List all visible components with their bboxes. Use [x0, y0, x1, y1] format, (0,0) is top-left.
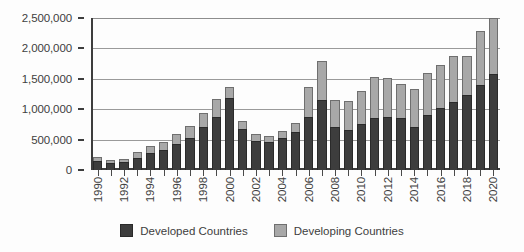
bar-stack [159, 142, 168, 170]
bar-stack [489, 18, 498, 170]
x-axis-tick-label: 2006 [303, 177, 315, 202]
bar-segment-developed [330, 127, 339, 170]
bar-slot [172, 18, 181, 170]
bar-segment-developed [476, 85, 485, 170]
bar-segment-developed [396, 118, 405, 170]
x-axis-tick [454, 170, 455, 176]
x-axis-tick [216, 170, 217, 176]
x-axis-tick [441, 170, 442, 176]
y-axis-tick-label: 2,500,000 [22, 12, 72, 24]
bar-stack [119, 159, 128, 170]
bar-segment-developing [159, 142, 168, 150]
x-axis-tick [361, 170, 362, 176]
bar-stack [304, 87, 313, 170]
bar-segment-developing [476, 31, 485, 85]
x-axis-tick-label: 1990 [92, 177, 104, 202]
x-axis-tick [467, 170, 468, 176]
bar-segment-developing [278, 131, 287, 138]
bar-slot [476, 18, 485, 170]
bar-stack [185, 126, 194, 170]
y-axis-tick [78, 17, 84, 19]
x-axis-tick-label: 2002 [250, 177, 262, 202]
bar-slot [251, 18, 260, 170]
y-axis-tick-label: 1,500,000 [22, 73, 72, 85]
bar-segment-developing [462, 56, 471, 95]
bar-segment-developing [225, 87, 234, 98]
bar-segment-developed [449, 102, 458, 170]
x-axis-tick-label: 2008 [329, 177, 341, 202]
bar-slot [330, 18, 339, 170]
y-axis-tick-label: 1,000,000 [22, 103, 72, 115]
bar-segment-developed [264, 142, 273, 170]
bar-segment-developed [93, 161, 102, 170]
x-axis-tick [401, 170, 402, 176]
x-axis-tick [243, 170, 244, 176]
bar-slot [185, 18, 194, 170]
bar-segment-developing [370, 77, 379, 118]
bar-segment-developing [357, 91, 366, 124]
y-axis-tick [78, 139, 84, 141]
bar-segment-developed [172, 144, 181, 170]
bar-stack [462, 56, 471, 170]
x-axis-tick [414, 170, 415, 176]
x-axis-tick-label: 1998 [197, 177, 209, 202]
bar-slot [410, 18, 419, 170]
bar-segment-developed [304, 117, 313, 171]
bar-stack [199, 113, 208, 170]
bar-stack [317, 61, 326, 170]
bar-slot [383, 18, 392, 170]
bar-segment-developing [410, 89, 419, 128]
bar-slot [119, 18, 128, 170]
bar-segment-developed [146, 153, 155, 170]
bar-segment-developed [423, 115, 432, 170]
bar-slot [396, 18, 405, 170]
x-axis-ticks [91, 170, 500, 177]
x-axis-tick [427, 170, 428, 176]
y-axis-tick [78, 78, 84, 80]
bar-slot [93, 18, 102, 170]
bar-stack [238, 121, 247, 170]
bar-segment-developing [436, 65, 445, 108]
bar-segment-developed [251, 141, 260, 170]
bar-segment-developing [185, 126, 194, 138]
x-axis-tick [335, 170, 336, 176]
bar-segment-developing [251, 134, 260, 141]
bar-stack [93, 157, 102, 170]
bar-stack [449, 56, 458, 170]
bar-segment-developing [238, 121, 247, 129]
x-axis-tick [480, 170, 481, 176]
bar-slot [212, 18, 221, 170]
bar-stack [370, 77, 379, 170]
x-axis-tick-label: 2020 [487, 177, 499, 202]
x-axis-tick [256, 170, 257, 176]
bar-segment-developed [199, 127, 208, 170]
bar-stack [383, 78, 392, 170]
bar-slot [238, 18, 247, 170]
bar-slot [423, 18, 432, 170]
bar-slot [199, 18, 208, 170]
bar-segment-developing [383, 78, 392, 117]
y-axis-tick-label: 500,000 [31, 134, 72, 146]
bar-segment-developed [383, 117, 392, 171]
bar-segment-developed [238, 129, 247, 170]
bar-slot [159, 18, 168, 170]
bar-segment-developing [146, 146, 155, 153]
bar-slot [291, 18, 300, 170]
bar-slot [264, 18, 273, 170]
x-axis-labels: 1990199219941996199820002002200420062008… [91, 177, 500, 219]
bar-slot [449, 18, 458, 170]
stacked-bar-chart: 0500,0001,000,0001,500,0002,000,0002,500… [0, 0, 524, 252]
bar-stack [330, 100, 339, 170]
bar-segment-developed [489, 74, 498, 170]
x-axis-tick [230, 170, 231, 176]
x-axis-tick [137, 170, 138, 176]
y-axis: 0500,0001,000,0001,500,0002,000,0002,500… [0, 0, 84, 180]
x-axis-tick-label: 1994 [144, 177, 156, 202]
bar-slot [304, 18, 313, 170]
bar-segment-developing [423, 73, 432, 116]
bar-stack [146, 146, 155, 170]
bar-slot [317, 18, 326, 170]
bar-segment-developed [357, 124, 366, 170]
bar-segment-developed [344, 130, 353, 170]
bar-segment-developed [106, 163, 115, 170]
